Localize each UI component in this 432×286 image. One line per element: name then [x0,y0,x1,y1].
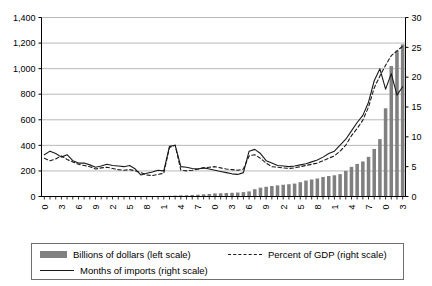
plot-area: 02004006008001,0001,2001,400 05101520253… [0,0,432,210]
svg-text:30: 30 [412,13,422,23]
svg-text:1989: 1989 [261,205,271,211]
svg-text:1962: 1962 [108,205,118,211]
svg-text:1950: 1950 [40,205,50,211]
svg-text:1,200: 1,200 [13,38,36,48]
svg-text:2004: 2004 [347,205,357,211]
svg-text:1977: 1977 [193,205,203,211]
bar-swatch-icon [40,251,67,258]
svg-text:10: 10 [412,132,422,142]
svg-text:400: 400 [20,141,35,151]
svg-text:1992: 1992 [279,205,289,211]
y-axis-left-ticks: 02004006008001,0001,2001,400 [13,13,42,202]
dashed-line-swatch-icon [228,254,262,255]
svg-text:1980: 1980 [210,205,220,211]
svg-text:20: 20 [412,72,422,82]
legend-item-percent-gdp: Percent of GDP (right scale) [228,247,387,261]
svg-text:1965: 1965 [125,205,135,211]
x-axis-ticks: 1950195319561959196219651968197119741977… [40,197,408,211]
svg-text:1968: 1968 [142,205,152,211]
svg-text:2013: 2013 [398,205,408,211]
svg-text:0: 0 [412,192,417,202]
svg-text:1995: 1995 [296,205,306,211]
svg-text:1953: 1953 [57,205,67,211]
svg-text:1986: 1986 [244,205,254,211]
svg-text:25: 25 [412,43,422,53]
svg-text:1998: 1998 [313,205,323,211]
line-series [44,46,402,175]
svg-text:1974: 1974 [176,205,186,211]
y-axis-right-ticks: 051015202530 [406,13,422,202]
svg-text:2001: 2001 [330,205,340,211]
legend-label-percent-gdp: Percent of GDP (right scale) [268,249,387,260]
svg-text:600: 600 [20,115,35,125]
svg-text:200: 200 [20,166,35,176]
legend: Billions of dollars (left scale) Percent… [31,243,404,280]
legend-item-months-imports: Months of imports (right scale) [40,263,208,277]
chart-svg: 02004006008001,0001,2001,400 05101520253… [0,0,432,210]
svg-text:800: 800 [20,89,35,99]
chart-figure: 02004006008001,0001,2001,400 05101520253… [0,0,432,286]
svg-text:2010: 2010 [381,205,391,211]
svg-text:5: 5 [412,162,417,172]
svg-text:1,000: 1,000 [13,64,36,74]
svg-text:1956: 1956 [74,205,84,211]
svg-text:0: 0 [30,192,35,202]
legend-label-billions: Billions of dollars (left scale) [73,249,191,260]
legend-label-months-imports: Months of imports (right scale) [80,265,208,276]
svg-text:1,400: 1,400 [13,13,36,23]
svg-text:15: 15 [412,102,422,112]
solid-line-swatch-icon [40,270,74,271]
svg-text:1971: 1971 [159,205,169,211]
legend-item-billions: Billions of dollars (left scale) [40,247,191,261]
svg-text:1959: 1959 [91,205,101,211]
bar-series [43,44,405,196]
svg-text:1983: 1983 [227,205,237,211]
svg-text:2007: 2007 [364,205,374,211]
